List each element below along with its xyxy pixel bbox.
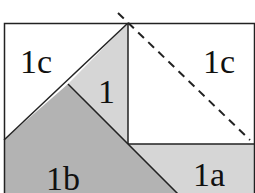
- quilt-block-diagram: 1c 1c 1 1b 1a: [0, 0, 255, 193]
- label-bottom-left: 1b: [46, 160, 80, 193]
- label-center: 1: [98, 73, 115, 110]
- label-bottom-right: 1a: [193, 156, 225, 193]
- label-top-left: 1c: [20, 43, 52, 80]
- label-top-right: 1c: [203, 43, 235, 80]
